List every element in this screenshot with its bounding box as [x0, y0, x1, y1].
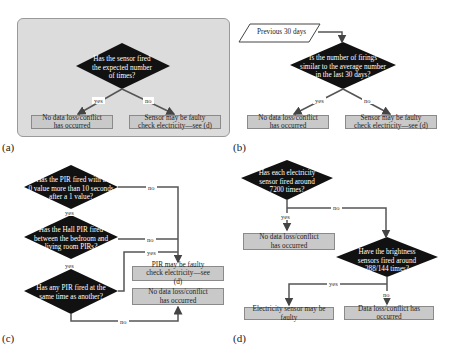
b-no-label: no	[362, 97, 373, 104]
decision-b-line2: similar to the average number	[297, 63, 389, 72]
decision-c1-line3: after a 1 value?	[28, 193, 114, 202]
decision-c2-line3: living room PIRs?	[30, 243, 112, 252]
decision-c2-line2: between the bedroom and	[30, 235, 112, 244]
decision-b-line1: Is the number of firings	[297, 54, 389, 63]
decision-a-line1: Has the sensor fired	[84, 55, 160, 64]
decision-c3-line2: same time as another?	[30, 293, 112, 302]
decision-a-text: Has the sensor fired the expected number…	[84, 55, 160, 81]
decision-b-text: Is the number of firings similar to the …	[297, 54, 389, 80]
decision-c1-line2: 0 value more than 10 seconds	[28, 185, 114, 194]
a-no-outcome: Sensor may be faulty check electricity—s…	[129, 115, 221, 129]
decision-d1-text: Has each electricity sensor fired around…	[252, 169, 322, 195]
c-outcome-faulty: PIR may be faulty check electricity—see …	[132, 266, 224, 281]
decision-a-line3: of times?	[84, 72, 160, 81]
decision-d2-line1: Have the brightness	[350, 248, 424, 257]
decision-d2-line2: sensors fired around	[350, 257, 424, 266]
a-no-label: no	[143, 97, 154, 104]
c-d3-yes-label: yes	[145, 249, 158, 256]
a-yes-label: yes	[92, 97, 105, 104]
decision-b-line3: in the last 30 days?	[297, 71, 389, 80]
decision-c2-text: Has the Hall PIR fired between the bedro…	[30, 226, 112, 252]
c-outcome-ok: No data loss/conflict has occurred	[132, 288, 224, 305]
decision-d1-line1: Has each electricity	[252, 169, 322, 178]
panel-d-label: (d)	[233, 332, 246, 344]
decision-c3-line1: Has any PIR fired at the	[30, 284, 112, 293]
c-d3-no-label: no	[118, 318, 129, 325]
panel-c-label: (c)	[2, 332, 14, 344]
panel-b-label: (b)	[233, 141, 246, 153]
c-d1-no-label: no	[146, 184, 157, 191]
b-yes-label: yes	[313, 97, 326, 104]
d-d1-no-label: no	[331, 204, 342, 211]
panel-a-label: (a)	[2, 141, 14, 153]
decision-d1-line2: sensor fired around	[252, 178, 322, 187]
d-outcome-elec: Electricity sensor may be faulty	[244, 307, 334, 320]
d-d2-no-label: no	[381, 291, 392, 298]
decision-d2-line3: 288/144 times?	[350, 265, 424, 274]
decision-c1-line1: Has the PIR fired with a	[28, 176, 114, 185]
d-outcome-loss: Data loss/conflict has occurred	[344, 306, 434, 320]
c-d2-no-label: no	[145, 236, 156, 243]
decision-d1-line3: 7200 times?	[252, 186, 322, 195]
decision-c1-text: Has the PIR fired with a 0 value more th…	[28, 176, 114, 202]
a-yes-outcome: No data loss/conflict has occurred	[31, 115, 113, 129]
decision-c3-text: Has any PIR fired at the same time as an…	[30, 284, 112, 301]
input-previous-30-days: Previous 30 days	[257, 28, 306, 36]
decision-c2-line1: Has the Hall PIR fired	[30, 226, 112, 235]
d-d1-yes-label: yes	[279, 213, 292, 220]
b-no-outcome: Sensor may be faulty check electricity—s…	[345, 115, 437, 129]
decision-d2-text: Have the brightness sensors fired around…	[350, 248, 424, 274]
c-d1-yes-label: yes	[63, 209, 76, 216]
b-yes-outcome: No data loss/conflict has occurred	[247, 115, 329, 129]
c-d2-yes-label: yes	[63, 262, 76, 269]
d-outcome-ok: No data loss/conflict has occurred	[243, 233, 335, 250]
d-d2-yes-label: yes	[327, 280, 340, 287]
decision-a-line2: the expected number	[84, 64, 160, 73]
